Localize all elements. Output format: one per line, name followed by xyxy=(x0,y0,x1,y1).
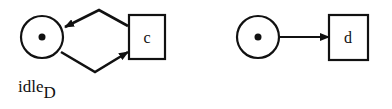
place-label: idleD xyxy=(18,77,56,102)
petri-net-diagram: c idleD d xyxy=(0,0,392,109)
token-icon xyxy=(39,34,46,41)
place-right xyxy=(237,16,279,58)
transition-c: c xyxy=(129,15,165,59)
place-idle-d xyxy=(21,16,63,58)
arc-idle-to-c xyxy=(61,52,128,72)
arc-c-to-idle xyxy=(65,10,128,27)
transition-d: d xyxy=(329,15,368,60)
token-icon xyxy=(255,34,262,41)
transition-c-label: c xyxy=(143,29,150,46)
right-net: d xyxy=(237,15,368,60)
transition-d-label: d xyxy=(344,29,352,46)
left-net: c idleD xyxy=(18,10,165,102)
